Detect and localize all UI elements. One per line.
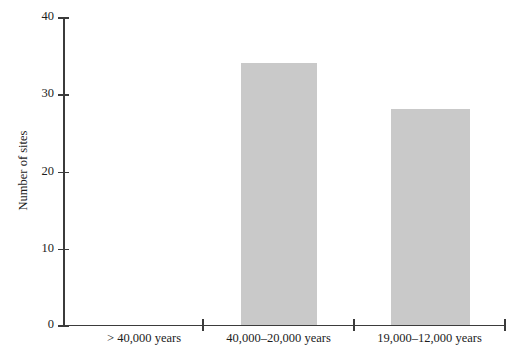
x-tick-end: [504, 319, 506, 331]
y-tick-label-40: 40: [24, 10, 54, 23]
x-axis-label-3: 19,000–12,000 years: [354, 332, 505, 346]
y-tick-label-30: 30: [24, 87, 54, 100]
bar-category-2: [241, 63, 317, 325]
x-axis-label-2: 40,000–20,000 years: [203, 332, 354, 346]
bar-category-3: [391, 109, 470, 325]
y-axis-line: [63, 17, 65, 326]
x-tick-separator-2: [353, 319, 355, 331]
bar-chart: Number of sites 40 30 20 10 0 > 40,000 y…: [0, 0, 523, 361]
y-tick-label-0: 0: [24, 318, 54, 331]
y-tick-label-10: 10: [24, 242, 54, 255]
x-tick-separator-1: [202, 319, 204, 331]
y-tick-label-20: 20: [24, 165, 54, 178]
x-axis-label-1: > 40,000 years: [79, 332, 209, 346]
